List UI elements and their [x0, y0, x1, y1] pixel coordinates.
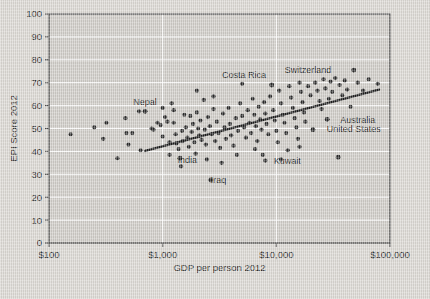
y-tick-label: 90	[31, 31, 42, 42]
scatter-point	[244, 136, 248, 140]
x-axis-title: GDP per person 2012	[173, 262, 265, 273]
y-tick-label: 70	[31, 77, 42, 88]
scatter-point	[251, 97, 255, 101]
point-label: India	[178, 155, 198, 165]
scatter-point	[236, 129, 240, 133]
scatter-point	[257, 105, 261, 109]
scatter-point	[313, 81, 317, 85]
scatter-point	[263, 112, 267, 116]
scatter-point	[124, 131, 128, 135]
scatter-point	[282, 121, 286, 125]
scatter-point	[302, 110, 306, 114]
scatter-point	[330, 90, 334, 94]
scatter-point	[315, 89, 319, 93]
y-tick-label: 100	[26, 8, 42, 19]
scatter-point	[327, 97, 331, 101]
x-tick-label: $10,000	[259, 249, 293, 260]
point-label: United States	[327, 124, 382, 134]
scatter-point	[297, 81, 301, 85]
scatter-point	[174, 132, 178, 136]
scatter-point	[195, 89, 199, 93]
scatter-point	[300, 100, 304, 104]
y-tick-label: 10	[31, 215, 42, 226]
scatter-point	[367, 77, 371, 81]
scatter-point	[303, 120, 307, 124]
scatter-point	[92, 125, 96, 129]
scatter-point	[268, 94, 272, 98]
scatter-point	[137, 109, 141, 113]
scatter-point	[263, 158, 267, 162]
scatter-point	[297, 145, 301, 149]
scatter-point	[167, 153, 171, 157]
annotated-point	[311, 127, 316, 132]
y-tick-label: 40	[31, 146, 42, 157]
scatter-point	[261, 153, 265, 157]
scatter-point	[190, 130, 194, 134]
scatter-point	[262, 100, 266, 104]
scatter-point	[333, 76, 337, 80]
scatter-point	[240, 82, 244, 86]
scatter-point	[161, 134, 165, 138]
scatter-point	[203, 128, 207, 132]
scatter-point	[213, 139, 217, 143]
scatter-point	[273, 118, 277, 122]
y-axis-title: EPI Score 2012	[8, 95, 19, 162]
scatter-point	[254, 124, 258, 128]
scatter-point	[184, 125, 188, 129]
scatter-point	[291, 106, 295, 110]
chart-figure: NepalCosta RicaSwitzerlandAustraliaUnite…	[0, 0, 430, 299]
scatter-point	[205, 157, 209, 161]
scatter-point	[289, 95, 293, 99]
scatter-point	[356, 81, 360, 85]
point-label: Kuwait	[274, 156, 302, 166]
scatter-point	[187, 145, 191, 149]
scatter-point	[151, 128, 155, 132]
scatter-point	[284, 131, 288, 135]
scatter-point	[228, 122, 232, 126]
scatter-point	[252, 113, 256, 117]
scatter-point	[294, 125, 298, 129]
scatter-point	[235, 153, 239, 157]
scatter-point	[279, 101, 283, 105]
scatter-point	[296, 137, 300, 141]
scatter-point	[101, 137, 105, 141]
scatter-point	[259, 128, 263, 132]
scatter-point	[271, 108, 275, 112]
scatter-point	[308, 93, 312, 97]
scatter-point	[231, 144, 235, 148]
scatter-point	[319, 107, 323, 111]
scatter-point	[192, 140, 196, 144]
scatter-point	[277, 89, 281, 93]
scatter-point	[348, 105, 352, 109]
scatter-point	[195, 110, 199, 114]
scatter-point	[343, 78, 347, 82]
scatter-point	[172, 121, 176, 125]
scatter-point	[170, 101, 174, 105]
y-tick-label: 80	[31, 54, 42, 65]
scatter-point	[226, 106, 230, 110]
annotated-point	[269, 83, 274, 88]
scatter-point	[196, 126, 200, 130]
scatter-point	[299, 90, 303, 94]
scatter-point	[115, 156, 119, 160]
scatter-point	[246, 108, 250, 112]
scatter-point	[218, 146, 222, 150]
scatter-point	[276, 140, 280, 144]
annotated-point	[325, 117, 330, 122]
scatter-point	[161, 106, 165, 110]
scatter-point	[126, 142, 130, 146]
scatter-plot: NepalCosta RicaSwitzerlandAustraliaUnite…	[0, 0, 430, 299]
scatter-point	[229, 133, 233, 137]
x-tick-label: $100,000	[370, 249, 410, 260]
scatter-point	[188, 114, 192, 118]
scatter-point	[165, 120, 169, 124]
scatter-point	[317, 99, 321, 103]
x-tick-label: $100	[38, 249, 59, 260]
scatter-point	[234, 116, 238, 120]
y-tick-label: 0	[37, 237, 42, 248]
scatter-point	[340, 93, 344, 97]
scatter-point	[202, 98, 206, 102]
scatter-point	[328, 79, 332, 83]
y-tick-label: 50	[31, 123, 42, 134]
scatter-point	[139, 148, 143, 152]
